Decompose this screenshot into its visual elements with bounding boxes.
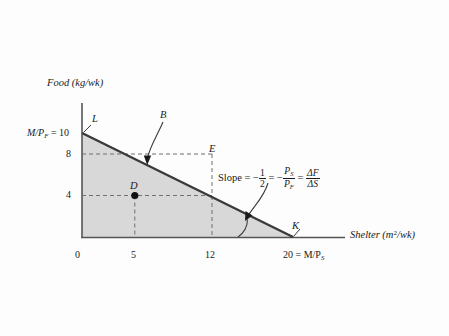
figure-budget-constraint: Food (kg/wk) Shelter (m2/wk) M/PF = 10 8… — [0, 0, 449, 336]
slope-lead-text: Slope = — [218, 172, 253, 183]
slope-price-num-sub: S — [290, 170, 293, 177]
y-intercept-label: M/PF = 10 — [27, 128, 69, 140]
y-tick-label-8: 8 — [66, 149, 71, 159]
x-axis-title: Shelter (m2/wk) — [350, 230, 415, 241]
point-label-B: B — [160, 110, 166, 121]
x-axis-title-main: Shelter (m — [350, 229, 393, 240]
y-intercept-value: = 10 — [48, 127, 69, 138]
point-label-K: K — [292, 221, 299, 232]
x-axis-title-tail: /wk) — [397, 229, 415, 240]
x-intercept-subscript: S — [321, 254, 324, 261]
slope-half-denominator: 2 — [259, 179, 266, 189]
slope-equals-3: = — [295, 172, 306, 183]
slope-fraction-half: 12 — [259, 168, 266, 189]
slope-fraction-deltas: ΔFΔS — [306, 168, 320, 189]
callout-arrow-B — [148, 122, 164, 158]
slope-equals-2: = — [266, 172, 277, 183]
x-intercept-value: 20 = M/P — [283, 249, 321, 260]
slope-fraction-prices: PSPF — [283, 166, 295, 190]
point-label-L: L — [92, 114, 98, 125]
x-tick-label-12: 12 — [205, 250, 215, 260]
slope-annotation: Slope = −12 = −PSPF = ΔFΔS — [218, 166, 320, 190]
slope-price-denominator: PF — [283, 179, 295, 191]
y-intercept-prefix: M/P — [27, 127, 44, 138]
x-intercept-label: 20 = M/PS — [283, 250, 324, 262]
point-label-D: D — [130, 181, 138, 192]
y-tick-label-4: 4 — [66, 190, 71, 200]
point-label-E: E — [209, 144, 215, 155]
x-tick-label-0: 0 — [75, 250, 80, 260]
y-axis-title: Food (kg/wk) — [47, 78, 103, 89]
slope-delta-denominator: ΔS — [306, 179, 320, 189]
slope-price-den-sub: F — [290, 183, 294, 190]
point-marker-D — [131, 192, 138, 199]
leader-line-L — [84, 125, 92, 133]
x-tick-label-5: 5 — [131, 250, 136, 260]
